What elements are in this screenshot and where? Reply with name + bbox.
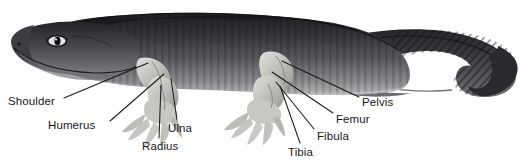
salamander-illustration — [0, 0, 530, 164]
label-fibula: Fibula — [317, 130, 349, 142]
head-group — [11, 22, 141, 80]
label-radius: Radius — [142, 140, 178, 152]
anatomy-figure: ShoulderHumerusRadiusUlnaTibiaFibulaFemu… — [0, 0, 530, 164]
label-shoulder: Shoulder — [8, 95, 55, 107]
nostril — [17, 42, 20, 45]
label-pelvis: Pelvis — [362, 96, 393, 108]
label-ulna: Ulna — [168, 122, 192, 134]
label-tibia: Tibia — [288, 146, 313, 158]
label-femur: Femur — [336, 113, 370, 125]
label-humerus: Humerus — [48, 119, 95, 131]
eye — [47, 35, 68, 47]
